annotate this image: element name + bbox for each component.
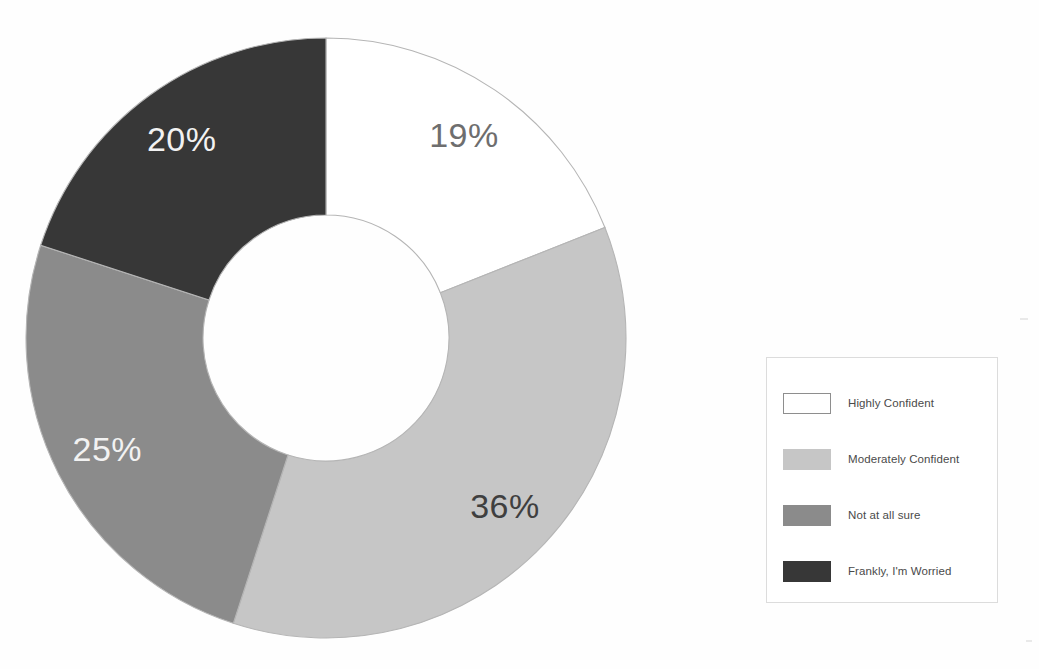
legend-swatch <box>783 449 831 470</box>
legend-item[interactable]: Highly Confident <box>767 375 997 431</box>
legend-swatch <box>783 393 831 414</box>
legend-item-label: Moderately Confident <box>848 453 959 465</box>
slice-data-label: 20% <box>147 120 217 158</box>
legend-item[interactable]: Frankly, I'm Worried <box>767 543 997 599</box>
slice-data-label: 36% <box>470 487 540 525</box>
slice-data-label: 25% <box>72 430 142 468</box>
chart-legend: Highly ConfidentModerately ConfidentNot … <box>766 357 998 603</box>
scan-artifact <box>1020 318 1028 320</box>
cropped-title <box>180 0 560 5</box>
legend-item-label: Not at all sure <box>848 509 920 521</box>
legend-swatch <box>783 505 831 526</box>
slice-data-label: 19% <box>429 116 499 154</box>
scan-artifact <box>1026 640 1032 642</box>
legend-item[interactable]: Not at all sure <box>767 487 997 543</box>
legend-item-label: Frankly, I'm Worried <box>848 565 951 577</box>
donut-chart: 19%36%25%20% <box>18 30 634 646</box>
legend-swatch <box>783 561 831 582</box>
donut-chart-svg: 19%36%25%20% <box>18 30 634 646</box>
legend-item[interactable]: Moderately Confident <box>767 431 997 487</box>
donut-slice <box>233 228 626 638</box>
donut-slices <box>26 38 626 638</box>
donut-slice <box>26 245 288 623</box>
legend-item-label: Highly Confident <box>848 397 934 409</box>
legend-item-list: Highly ConfidentModerately ConfidentNot … <box>767 358 997 602</box>
chart-page: 19%36%25%20% Highly ConfidentModerately … <box>0 0 1039 669</box>
